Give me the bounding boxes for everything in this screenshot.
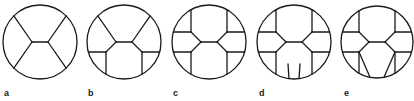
top-hex-edge <box>191 32 201 42</box>
panel-label: e <box>344 88 349 98</box>
top-left-diagonal <box>98 16 116 42</box>
bottom-hex-edge <box>106 42 116 52</box>
bottom-hex-edge <box>132 42 142 52</box>
top-left-diagonal <box>14 16 32 42</box>
top-hex-edge <box>302 32 312 42</box>
top-hex-edge <box>359 32 369 42</box>
bottom-left-diagonal <box>14 42 32 68</box>
panel-d: d <box>257 5 331 98</box>
top-right-diagonal <box>48 16 66 42</box>
bottom-hex-edge <box>191 42 201 52</box>
panel-label: d <box>259 88 265 98</box>
panel-a: a <box>3 5 77 98</box>
bottom-hex-edge <box>385 42 395 52</box>
panel-c: c <box>172 5 246 98</box>
bottom-right-diagonal <box>48 42 66 68</box>
bottom-short-line <box>288 64 289 79</box>
top-hex-edge <box>276 32 286 42</box>
bottom-hex-edge <box>276 42 286 52</box>
bottom-hex-edge <box>359 42 369 52</box>
panel-label: b <box>88 88 94 98</box>
bottom-hex-edge <box>302 42 312 52</box>
bottom-hex-edge <box>217 42 227 52</box>
bottom-short-line <box>299 64 300 79</box>
panel-b: b <box>87 5 161 98</box>
circle-subdivision-diagram: abcde <box>0 0 414 101</box>
panel-e: e <box>341 6 413 98</box>
top-hex-edge <box>217 32 227 42</box>
panel-label: c <box>173 88 178 98</box>
top-right-diagonal <box>132 16 150 42</box>
panel-label: a <box>4 88 10 98</box>
top-hex-edge <box>385 32 395 42</box>
